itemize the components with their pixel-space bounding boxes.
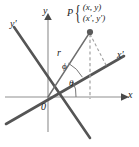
point-coordinates-stack: (x, y) (x′, y′)	[83, 2, 105, 24]
point-coords-unprimed: (x, y)	[83, 2, 105, 13]
radius-label-r: r	[57, 48, 61, 58]
brace-glyph: {	[75, 4, 81, 21]
axis-label-y: y	[43, 6, 47, 16]
point-p-label-group: P { (x, y) (x′, y′)	[67, 2, 105, 24]
coordinate-rotation-figure: y′ y x′ x r θ ϕ 0 P { (x, y) (x′, y′)	[0, 0, 139, 147]
x-axis-group	[5, 93, 129, 101]
angle-label-phi: ϕ	[62, 62, 67, 71]
angle-label-theta: θ	[69, 79, 73, 88]
point-p-marker	[87, 29, 93, 35]
point-coords-primed: (x′, y′)	[83, 13, 105, 24]
dashed-drop-to-x-prime-axis	[90, 34, 107, 67]
origin-label: 0	[41, 102, 46, 112]
point-p-name: P	[67, 7, 73, 18]
axis-label-x-prime: x′	[117, 50, 124, 60]
axis-label-y-prime: y′	[10, 19, 17, 29]
phi-angle-arc	[68, 63, 82, 77]
axis-label-x: x	[128, 90, 132, 100]
